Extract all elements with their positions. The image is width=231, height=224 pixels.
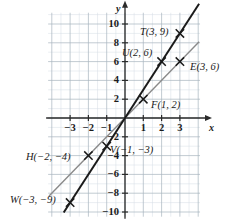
point-label: F(1, 2) [151,100,180,111]
y-tick-label: 2 [114,94,119,105]
point-label: T(3, 9) [140,27,169,38]
x-tick-label: −2 [83,123,94,134]
y-tick-label: −6 [108,169,119,180]
point-label: W(−3, −9) [10,195,56,206]
point-label: E(3, 6) [190,62,219,73]
x-tick-label: 2 [159,123,164,134]
y-tick-label: −8 [108,188,119,199]
y-tick-label: −10 [103,207,119,218]
point-label: U(2, 6) [122,48,152,59]
x-tick-label: 1 [141,123,146,134]
y-tick-label: 4 [114,75,119,86]
y-axis-label: y [116,4,120,14]
x-tick-label: 3 [177,123,182,134]
y-axis-arrow [122,1,128,8]
y-tick-label: 8 [114,38,119,49]
point-label: H(−2, −4) [26,152,71,163]
y-tick-label: −2 [108,132,119,143]
point-label: V(−1, −3) [110,145,153,156]
x-tick-label: −3 [64,123,75,134]
x-axis-label: x [209,123,214,133]
x-axis-arrow [205,115,212,121]
y-tick-label: 10 [109,19,120,30]
y-tick-label: 6 [114,57,119,68]
